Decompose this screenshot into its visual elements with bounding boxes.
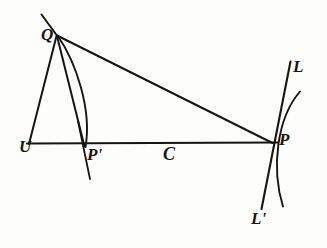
label-C: C	[163, 145, 175, 163]
label-U: U	[19, 138, 31, 155]
ray-Q-to-U	[29, 36, 57, 144]
label-p-prime: P'	[87, 146, 102, 163]
label-L: L	[293, 58, 303, 75]
label-l-prime: L'	[251, 210, 266, 227]
ray-Q-to-P	[58, 36, 273, 143]
label-Q: Q	[41, 26, 53, 43]
baseline-U-to-P	[27, 143, 278, 144]
figure-canvas: Q U P' C P L L'	[0, 0, 327, 248]
label-P: P	[279, 131, 289, 148]
